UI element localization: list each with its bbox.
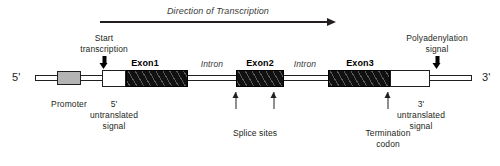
promoter-spacer-segment: [81, 75, 102, 81]
termination-codon-label-line2: codon: [376, 139, 400, 150]
splice-site-left-up-arrow-icon: [233, 92, 240, 109]
five-utr-segment: [102, 70, 126, 87]
five-prime-flank-segment: [35, 75, 57, 81]
three-utr-label-line1: 3': [418, 99, 425, 110]
exon3-label: Exon3: [346, 58, 374, 69]
termination-codon-up-arrow-icon: [385, 92, 392, 109]
exon3-segment: [328, 70, 390, 87]
five-utr-label-line3: signal: [103, 121, 126, 132]
exon1-segment: [126, 70, 188, 87]
start-transcription-label-line2: transcription: [80, 44, 128, 55]
three-prime-flank-segment: [430, 75, 472, 81]
start-transcription-label-line1: Start: [95, 33, 113, 44]
right-arrow-icon: [100, 21, 336, 23]
gene-construct-track: [0, 68, 500, 88]
polyadenylation-label-line1: Polyadenylation: [406, 33, 468, 44]
gene-structure-diagram: Direction of Transcription Start transcr…: [0, 0, 500, 166]
three-utr-segment: [390, 70, 430, 87]
splice-sites-label: Splice sites: [233, 128, 277, 139]
promoter-label: Promoter: [51, 99, 87, 110]
intron1-segment: [188, 75, 236, 81]
polyadenylation-label-line2: signal: [426, 44, 449, 55]
five-utr-label-line1: 5': [111, 99, 118, 110]
exon2-label: Exon2: [246, 58, 274, 69]
direction-of-transcription-label: Direction of Transcription: [167, 6, 269, 17]
splice-site-right-up-arrow-icon: [271, 92, 278, 109]
exon2-segment: [236, 70, 284, 87]
three-utr-label-line3: signal: [410, 121, 433, 132]
intron2-segment: [284, 75, 328, 81]
promoter-segment: [57, 71, 81, 85]
termination-codon-label-line1: Termination: [365, 128, 410, 139]
five-utr-label-line2: untranslated: [90, 110, 138, 121]
three-utr-label-line2: untranslated: [397, 110, 445, 121]
exon1-label: Exon1: [131, 58, 159, 69]
